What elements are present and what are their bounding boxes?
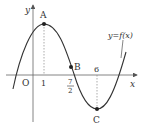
curve-label: y=f(x) [107,31,133,40]
point-c-marker [95,107,99,111]
point-b-label: B [74,62,81,72]
y-axis-label: y [24,5,31,15]
tick-label-6: 6 [94,65,99,74]
tick-label-7-half-numerator: 7 [68,78,72,86]
tick-label-7-half-denominator: 2 [68,87,72,95]
origin-label: O [22,78,29,88]
x-axis-label: x [130,79,135,89]
tick-label-1: 1 [41,79,46,88]
curve-label-leader [121,40,123,58]
graph-canvas: y x O A B C 1 6 7 2 y=f(x) [0,0,147,129]
point-c-label: C [93,115,100,125]
point-b-marker [69,65,73,69]
point-a-marker [42,22,46,26]
point-a-label: A [39,10,47,20]
